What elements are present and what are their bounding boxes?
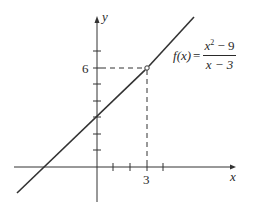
numerator-rest: − 9 xyxy=(214,38,234,53)
y-axis-label: y xyxy=(102,10,108,23)
function-graph xyxy=(0,0,256,212)
y-tick-label-6: 6 xyxy=(82,62,89,75)
removable-discontinuity-hole xyxy=(145,66,149,70)
x-axis-label: x xyxy=(230,170,236,183)
formula-func-arg: (x) xyxy=(177,48,191,64)
y-axis-arrow-icon xyxy=(95,16,100,23)
formula-equals: = xyxy=(193,48,200,64)
function-formula: f (x) = x2 − 9 x − 3 xyxy=(173,38,236,73)
formula-denominator: x − 3 xyxy=(206,56,234,73)
formula-fraction: x2 − 9 x − 3 xyxy=(203,38,235,73)
function-line-lower xyxy=(17,70,145,193)
x-tick-label-3: 3 xyxy=(143,173,150,186)
formula-numerator: x2 − 9 xyxy=(203,38,235,56)
